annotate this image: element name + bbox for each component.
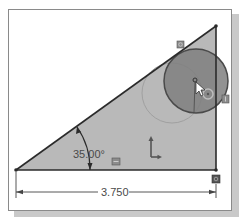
vertex-top[interactable] [214,24,218,28]
vertex-bottom-right[interactable] [214,168,218,172]
relation-tangent-icon[interactable] [177,41,184,48]
vertex-bottom-left[interactable] [14,168,18,172]
angle-dimension-value[interactable]: 35.00° [73,148,105,160]
selected-circle[interactable] [164,49,228,113]
dimension-arrow-right [209,190,216,194]
relation-horizontal-icon[interactable] [112,158,120,165]
dimension-arrow-left [16,190,23,194]
linear-dimension-value[interactable]: 3.750 [101,186,129,198]
relation-vertical-icon[interactable] [222,95,229,103]
sketch-canvas[interactable]: 35.00° 3.750 [0,0,240,220]
relation-coincident-icon[interactable] [212,175,220,183]
